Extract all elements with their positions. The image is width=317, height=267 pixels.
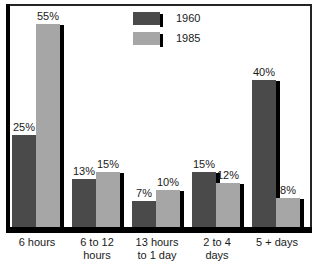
bar-group: 25%55% [12, 6, 62, 227]
bar-1985-3: 12% [216, 183, 240, 227]
bar-1985-0: 55% [36, 24, 60, 227]
bar-fill [192, 172, 216, 227]
bar-1985-1: 15% [96, 172, 120, 227]
bar-fill [36, 24, 60, 227]
bar-1960-1: 13% [72, 179, 96, 227]
bar-value-label: 7% [136, 187, 152, 199]
bar-chart: 1960 1985 25%55%13%15%7%10%15%12%40%8% 6… [0, 0, 317, 267]
bar-1985-4: 8% [276, 198, 300, 227]
bar-group: 40%8% [252, 6, 302, 227]
bar-fill [72, 179, 96, 227]
plot-frame-right [310, 4, 312, 227]
bar-shadow [120, 173, 124, 228]
bar-shadow [180, 191, 184, 228]
bar-fill [96, 172, 120, 227]
bar-value-label: 10% [157, 176, 179, 188]
bar-shadow [60, 25, 64, 228]
bar-value-label: 15% [97, 158, 119, 170]
bar-value-label: 15% [193, 158, 215, 170]
bar-fill [252, 80, 276, 227]
bar-fill [156, 190, 180, 227]
x-axis-label: 5 + days [240, 236, 314, 249]
bar-1960-3: 15% [192, 172, 216, 227]
bar-value-label: 55% [37, 10, 59, 22]
bar-value-label: 8% [280, 184, 296, 196]
bar-fill [216, 183, 240, 227]
bar-group: 15%12% [192, 6, 242, 227]
plot-area: 25%55%13%15%7%10%15%12%40%8% [10, 6, 310, 227]
bar-group: 7%10% [132, 6, 182, 227]
bar-1960-0: 25% [12, 135, 36, 227]
bar-group: 13%15% [72, 6, 122, 227]
bar-1960-4: 40% [252, 80, 276, 227]
bar-value-label: 40% [253, 66, 275, 78]
bar-fill [276, 198, 300, 227]
bar-1960-2: 7% [132, 201, 156, 227]
bar-value-label: 12% [217, 169, 239, 181]
bar-shadow [300, 199, 304, 228]
bar-fill [132, 201, 156, 227]
bar-value-label: 13% [73, 165, 95, 177]
bar-fill [12, 135, 36, 227]
bar-value-label: 25% [13, 121, 35, 133]
bar-shadow [240, 184, 244, 228]
x-axis-labels: 6 hours6 to 12 hours13 hours to 1 day2 t… [10, 236, 310, 266]
bar-1985-2: 10% [156, 190, 180, 227]
